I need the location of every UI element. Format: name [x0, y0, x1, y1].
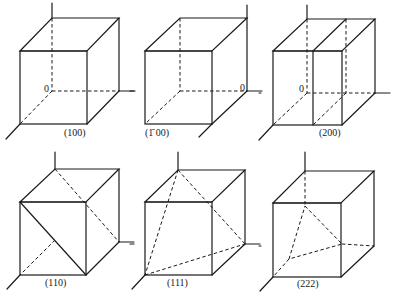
- plane-label-222: (222): [297, 279, 319, 289]
- plane-label-111: (111): [167, 278, 188, 288]
- plane-label-110: (110): [45, 278, 66, 288]
- cube-111: [130, 152, 260, 289]
- cube-200: [259, 5, 390, 140]
- plane-label-minus-100: (1̄ 00): [145, 128, 169, 138]
- cube-110: [7, 152, 134, 289]
- plane-label-200: (200): [319, 128, 341, 138]
- origin-label-200: 0: [299, 84, 304, 94]
- crystal-planes-figure: [0, 0, 394, 293]
- origin-label-minus-100: 0: [240, 83, 245, 93]
- cube-100: [6, 3, 134, 139]
- cube-minus-100: [130, 5, 262, 137]
- cube-222: [259, 152, 374, 291]
- origin-label-100: 0: [44, 84, 49, 94]
- plane-label-100: (100): [64, 128, 86, 138]
